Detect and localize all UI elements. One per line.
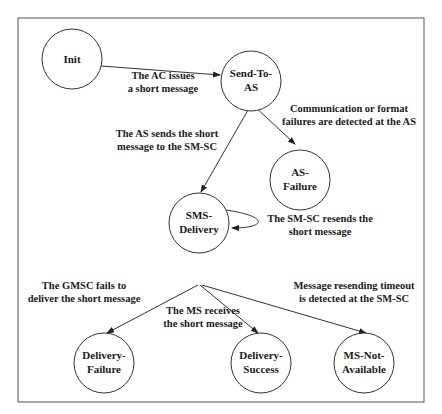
transition-label: The AC issues <box>131 70 194 81</box>
state-diagram: Init Send-To- AS AS- Failure SMS- Delive… <box>0 0 442 414</box>
state-label: Delivery- <box>239 349 283 361</box>
state-init: Init <box>42 29 102 89</box>
state-label: Send-To- <box>230 67 273 79</box>
transition-label: a short message <box>128 83 199 94</box>
transition-label: short message <box>289 226 352 237</box>
transition-label: Communication or format <box>290 103 409 114</box>
transition-label: The AS sends the short <box>116 128 219 139</box>
state-ms-not-available: MS-Not- Available <box>334 333 394 393</box>
state-label: SMS- <box>186 209 213 221</box>
state-label: Delivery <box>179 223 219 235</box>
state-delivery-failure: Delivery- Failure <box>74 333 134 393</box>
transition-label: deliver the short message <box>28 293 141 304</box>
state-label: AS <box>244 81 258 93</box>
state-sms-delivery: SMS- Delivery <box>169 193 229 253</box>
state-label: AS- <box>291 166 309 178</box>
state-label: Success <box>243 363 279 375</box>
state-delivery-success: Delivery- Success <box>231 333 291 393</box>
state-as-failure: AS- Failure <box>270 150 330 210</box>
transition-self-loop <box>226 210 258 228</box>
state-label: Available <box>342 363 386 375</box>
transition-label: The GMSC fails to <box>42 280 126 291</box>
state-send-to-as: Send-To- AS <box>221 51 281 111</box>
transition-labels: The AC issues a short message Communicat… <box>28 70 417 329</box>
transition-label: Message resending timeout <box>293 280 415 291</box>
state-label: Init <box>63 53 80 65</box>
transition-label: is detected at the SM-SC <box>299 293 409 304</box>
state-label: Delivery- <box>82 349 126 361</box>
transition-label: message to the SM-SC <box>117 141 217 152</box>
state-label: MS-Not- <box>344 349 385 361</box>
transition-label: The MS receives <box>166 305 240 316</box>
states: Init Send-To- AS AS- Failure SMS- Delive… <box>42 29 394 393</box>
state-label: Failure <box>87 363 121 375</box>
transition-label: failures are detected at the AS <box>282 116 416 127</box>
transition-label: The SM-SC resends the <box>267 213 373 224</box>
state-label: Failure <box>283 180 317 192</box>
transition-label: the short message <box>163 318 243 329</box>
